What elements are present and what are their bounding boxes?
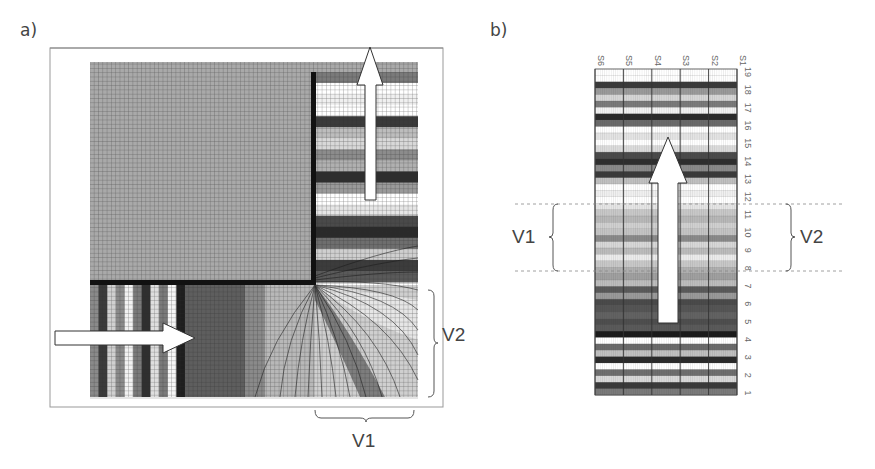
row-label: 11	[743, 210, 753, 219]
row-label: 14	[743, 156, 753, 166]
row-label: 5	[743, 319, 753, 324]
column-label: S3	[681, 55, 691, 66]
column-labels: S6S5S4S3S2S1	[596, 55, 748, 66]
row-label: 12	[743, 192, 753, 202]
column-label: S1	[738, 55, 748, 66]
column-label: S2	[710, 55, 720, 66]
row-label: 9	[743, 248, 753, 253]
v1-brace-b	[549, 204, 558, 271]
panel-b-v2-label: V2	[800, 226, 823, 248]
row-label: 17	[743, 103, 753, 113]
column-label: S6	[596, 55, 606, 66]
column-label: S5	[624, 55, 634, 66]
row-label: 7	[743, 283, 753, 288]
row-label: 15	[743, 138, 753, 148]
panel-b: S6S5S4S3S2S1 123456789101112131415161718…	[0, 0, 875, 469]
row-label: 8	[743, 266, 753, 271]
row-label: 13	[743, 174, 753, 184]
row-label: 6	[743, 301, 753, 306]
row-label: 19	[743, 67, 753, 77]
column-label: S4	[653, 55, 663, 66]
row-label: 1	[743, 390, 753, 395]
row-labels: 12345678910111213141516171819	[743, 67, 753, 396]
panel-b-v1-label: V1	[512, 226, 535, 248]
v2-brace-b	[786, 204, 795, 271]
panel-b-svg: S6S5S4S3S2S1 123456789101112131415161718…	[0, 0, 875, 469]
row-label: 16	[743, 120, 753, 130]
row-label: 2	[743, 373, 753, 378]
row-label: 18	[743, 85, 753, 95]
row-label: 3	[743, 355, 753, 360]
row-label: 4	[743, 337, 753, 342]
row-label: 10	[743, 227, 753, 237]
